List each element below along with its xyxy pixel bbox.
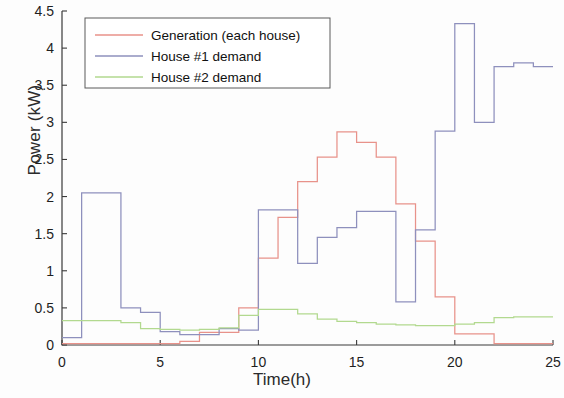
y-tick-label: 1	[46, 263, 54, 279]
y-tick-label: 3	[46, 114, 54, 130]
y-tick-label: 0	[46, 337, 54, 353]
y-tick-label: 1.5	[35, 226, 55, 242]
chart-figure: 00.511.522.533.544.50510152025 Generatio…	[0, 0, 564, 398]
x-tick-label: 0	[58, 354, 66, 370]
legend-label-1: Generation (each house)	[151, 28, 300, 43]
chart-legend: Generation (each house)House #1 demandHo…	[85, 18, 330, 88]
y-axis-label: Power (kW)	[25, 65, 45, 195]
x-tick-label: 15	[349, 354, 365, 370]
x-axis-label: Time(h)	[0, 370, 564, 390]
power-demand-step-chart: 00.511.522.533.544.50510152025 Generatio…	[0, 0, 564, 398]
y-tick-label: 0.5	[35, 300, 55, 316]
y-tick-label: 4	[46, 40, 54, 56]
series-line-3	[62, 309, 553, 330]
legend-label-2: House #1 demand	[151, 49, 261, 64]
x-tick-label: 5	[156, 354, 164, 370]
y-tick-label: 2	[46, 189, 54, 205]
legend-label-3: House #2 demand	[151, 70, 261, 85]
series-line-1	[62, 132, 553, 344]
x-tick-label: 10	[251, 354, 267, 370]
x-tick-label: 25	[545, 354, 561, 370]
y-tick-label: 4.5	[35, 3, 55, 19]
x-tick-label: 20	[447, 354, 463, 370]
